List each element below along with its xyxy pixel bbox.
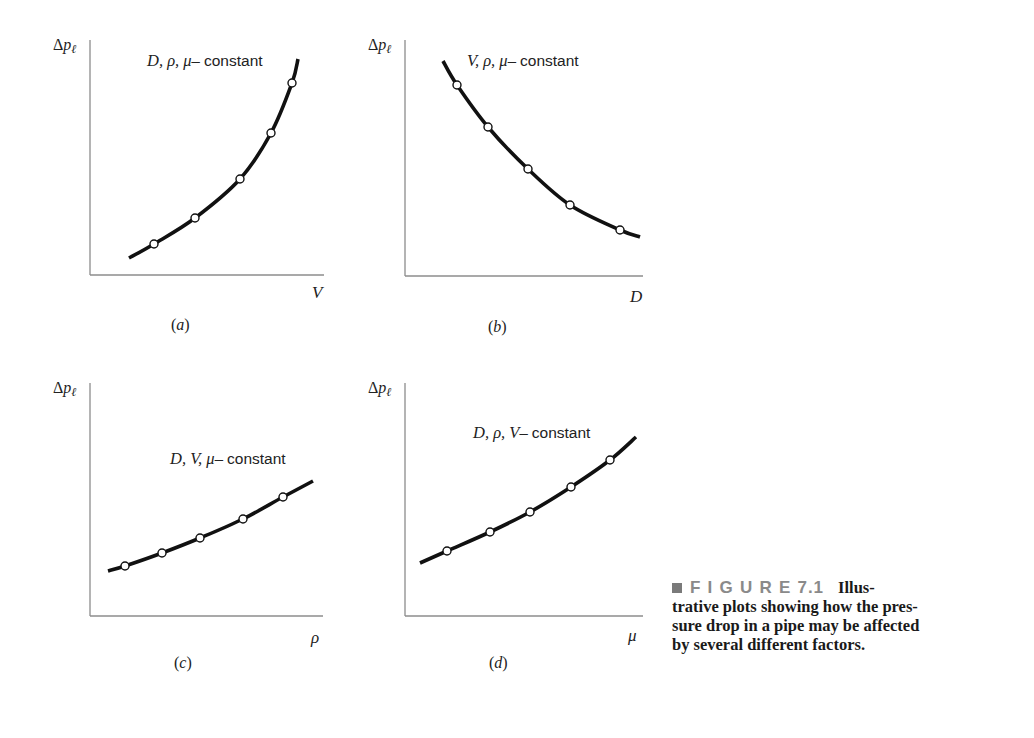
data-curve xyxy=(420,437,636,563)
x-axis-label: V xyxy=(312,283,325,302)
figure-number: 7.1 xyxy=(797,578,824,597)
figure-square-icon xyxy=(672,583,682,593)
y-axis-label: Δpℓ xyxy=(53,36,76,56)
data-point-marker xyxy=(121,562,129,570)
chart-panel-b: ΔpℓV, ρ, μ– constantD(b) xyxy=(368,36,643,336)
caption-line-2: trative plots showing how the pres- xyxy=(672,597,1002,616)
panel-label: (a) xyxy=(171,316,190,334)
data-point-marker xyxy=(239,515,247,523)
figure-label: FIGURE xyxy=(690,578,797,597)
x-axis-label: ρ xyxy=(310,628,319,647)
data-point-marker xyxy=(150,240,158,248)
x-axis-label: μ xyxy=(627,626,637,645)
data-point-marker xyxy=(616,226,624,234)
caption-line-3: sure drop in a pipe may be affected xyxy=(672,616,1002,635)
caption-line-4: by several different factors. xyxy=(672,635,1002,654)
data-point-marker xyxy=(526,508,534,516)
data-point-marker xyxy=(484,123,492,131)
panel-label: (d) xyxy=(489,654,508,672)
data-point-marker xyxy=(524,165,532,173)
data-point-marker xyxy=(288,79,296,87)
caption-line-1: FIGURE7.1Illus- xyxy=(672,578,1002,597)
caption-text-1: Illus- xyxy=(838,578,875,597)
data-point-marker xyxy=(486,528,494,536)
constant-parameters-label: D, V, μ– constant xyxy=(169,449,286,468)
data-point-marker xyxy=(453,81,461,89)
data-point-marker xyxy=(158,549,166,557)
data-point-marker xyxy=(606,456,614,464)
panel-label: (c) xyxy=(174,654,192,672)
y-axis-label: Δpℓ xyxy=(53,379,76,399)
data-point-marker xyxy=(567,483,575,491)
constant-parameters-label: V, ρ, μ– constant xyxy=(467,51,579,70)
data-point-marker xyxy=(191,214,199,222)
chart-panel-a: ΔpℓD, ρ, μ– constantV(a) xyxy=(53,36,325,334)
figure-caption: FIGURE7.1Illus- trative plots showing ho… xyxy=(672,578,1002,654)
data-point-marker xyxy=(267,129,275,137)
constant-parameters-label: D, ρ, μ– constant xyxy=(146,51,263,70)
data-point-marker xyxy=(196,534,204,542)
data-point-marker xyxy=(443,547,451,555)
y-axis-label: Δpℓ xyxy=(368,36,391,56)
constant-parameters-label: D, ρ, V– constant xyxy=(472,423,591,442)
chart-panel-d: ΔpℓD, ρ, V– constantμ(d) xyxy=(368,379,643,672)
data-point-marker xyxy=(236,175,244,183)
data-point-marker xyxy=(279,493,287,501)
x-axis-label: D xyxy=(629,287,643,306)
y-axis-label: Δpℓ xyxy=(368,379,391,399)
data-point-marker xyxy=(566,201,574,209)
data-curve xyxy=(129,59,298,258)
chart-panel-c: ΔpℓD, V, μ– constantρ(c) xyxy=(53,379,323,672)
data-curve xyxy=(443,61,640,237)
panel-label: (b) xyxy=(488,318,507,336)
